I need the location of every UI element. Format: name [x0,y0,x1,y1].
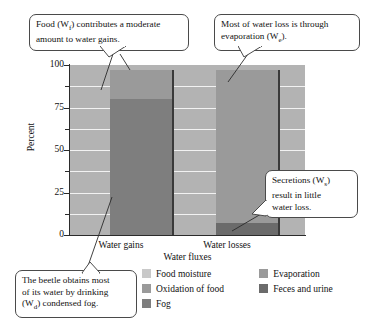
y-tick-62 [65,129,69,130]
y-axis-line [69,64,70,236]
legend-label-oxidation-of-food: Oxidation of food [156,284,224,294]
callout-evaporation-line1: Most of water loss is through [221,19,328,29]
legend-swatch-evaporation [259,269,268,278]
segment-oxidation-of-food[interactable] [110,70,172,99]
callout-tail-secretions [252,200,270,218]
y-label-100: 100 [24,60,64,69]
y-tick-50 [64,150,69,151]
x-axis-title: Water fluxes [70,252,305,262]
y-tick-25 [64,193,69,194]
callout-secretions-line1a: Secretions (W [272,175,324,185]
callout-tail-food [100,46,130,58]
callout-evaporation-line2a: evaporation (W [221,31,278,41]
y-tick-12 [65,214,69,215]
legend-item-oxidation-of-food[interactable]: Oxidation of food [142,281,251,296]
legend-label-evaporation: Evaporation [273,269,319,279]
segment-feces-and-urine[interactable] [216,223,278,235]
legend-label-fog: Fog [156,299,171,309]
legend-swatch-food-moisture [142,269,151,278]
bar-edge-water-gains [172,70,174,235]
callout-fog-line1: The beetle obtains most [22,275,110,285]
bar-water-gains[interactable] [110,70,172,235]
y-tick-37 [65,171,69,172]
callout-evaporation-line2b: ). [282,31,287,41]
legend-item-food-moisture[interactable]: Food moisture [142,266,251,281]
callout-fog: The beetle obtains most of its water by … [15,270,137,318]
y-axis-title: Percent [26,102,36,172]
callout-food-line1: Food (W [36,19,69,29]
callout-secretions: Secretions (Ws) result in little water l… [265,170,358,218]
callout-tail-fog [78,262,104,274]
callout-evaporation: Most of water loss is through evaporatio… [214,14,360,51]
legend-label-food-moisture: Food moisture [156,269,211,279]
callout-secretions-line1b: ) [327,175,330,185]
callout-food-line1b: ) contributes a moderate [71,19,160,29]
x-axis-line [69,235,306,236]
legend-item-feces-and-urine[interactable]: Feces and urine [259,281,360,296]
legend-swatch-feces-and-urine [259,284,268,293]
x-label-water-losses: Water losses [186,240,268,250]
y-tick-0 [64,235,69,236]
y-tick-75 [64,108,69,109]
legend: Food moisture Evaporation Oxidation of f… [142,266,360,311]
y-tick-87 [65,86,69,87]
legend-label-feces-and-urine: Feces and urine [273,284,333,294]
legend-item-fog[interactable]: Fog [142,296,251,311]
callout-fog-line3b: ) condensed fog. [37,298,98,308]
y-label-0: 0 [24,230,64,239]
callout-secretions-line3: water loss. [272,202,311,212]
legend-swatch-fog [142,299,151,308]
water-flux-chart-figure: 100 75 50 25 0 Percent Water gains Water… [0,0,366,327]
legend-swatch-oxidation-of-food [142,284,151,293]
callout-fog-line2: of its water by drinking [22,287,108,297]
callout-tail-evaporation [238,46,268,58]
callout-secretions-line2: result in little [272,190,321,200]
x-label-water-gains: Water gains [80,240,162,250]
y-label-25: 25 [24,188,64,197]
segment-fog[interactable] [110,99,172,235]
y-tick-100 [64,65,69,66]
callout-fog-line3a: (W [22,298,34,308]
legend-item-evaporation[interactable]: Evaporation [259,266,360,281]
callout-food-line2: amount to water gains. [36,34,120,44]
